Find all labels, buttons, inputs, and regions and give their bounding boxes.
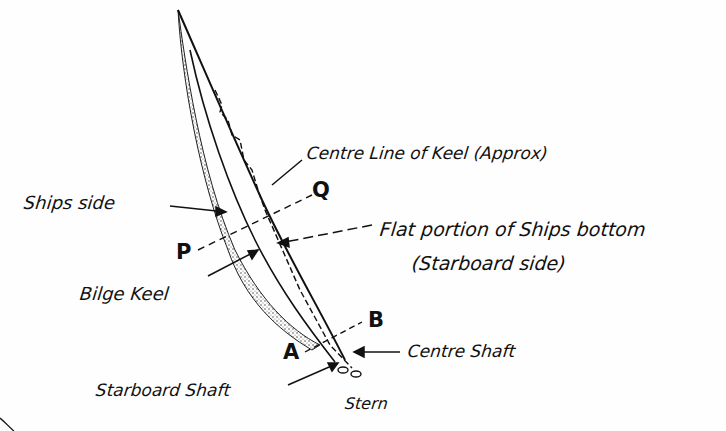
arrow-flat-portion: [280, 225, 372, 243]
label-centre-line: Centre Line of Keel (Approx): [306, 143, 549, 163]
corner-arc: [0, 418, 14, 431]
label-starboard-side: (Starboard side): [411, 252, 567, 274]
label-flat-portion: Flat portion of Ships bottom: [379, 218, 647, 240]
label-starboard-shaft: Starboard Shaft: [95, 380, 231, 400]
arrow-starboard-shaft: [288, 364, 336, 385]
label-ships-side: Ships side: [23, 192, 116, 213]
point-b: B: [368, 308, 384, 332]
centre-propeller: [351, 371, 361, 377]
bilge-line: [190, 50, 335, 362]
hull-diagram: Centre Line of Keel (Approx) Ships side …: [0, 0, 726, 431]
label-centre-shaft: Centre Shaft: [407, 341, 516, 361]
starboard-propeller: [338, 367, 348, 373]
label-bilge-keel: Bilge Keel: [79, 283, 170, 304]
point-p: P: [176, 240, 191, 264]
hull-drawing: [0, 0, 726, 431]
point-a: A: [283, 340, 299, 364]
label-stern: Stern: [344, 394, 389, 413]
point-q: Q: [312, 178, 330, 202]
arrow-centre-line: [272, 160, 302, 185]
